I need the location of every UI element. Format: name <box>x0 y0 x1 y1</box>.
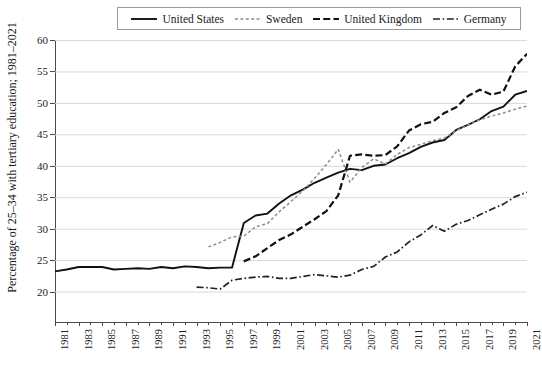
legend-label: United States <box>162 13 224 25</box>
y-tick-mark <box>50 134 55 135</box>
legend-entry-sweden[interactable]: Sweden <box>235 13 302 25</box>
x-minor-tick-mark <box>492 322 493 325</box>
x-minor-tick-mark <box>303 322 304 325</box>
x-tick-label: 2007 <box>366 329 377 350</box>
x-minor-tick-mark <box>279 322 280 325</box>
y-tick-mark <box>50 166 55 167</box>
legend-label: Germany <box>464 13 507 25</box>
x-tick-label: 1993 <box>201 329 212 350</box>
y-tick-mark <box>50 71 55 72</box>
y-tick-mark <box>50 197 55 198</box>
x-tick-mark <box>197 322 198 326</box>
y-tick-label: 50 <box>22 97 48 109</box>
legend-label: United Kingdom <box>344 13 422 25</box>
x-tick-label: 2015 <box>460 329 471 350</box>
x-tick-mark <box>456 322 457 326</box>
x-minor-tick-mark <box>374 322 375 325</box>
x-tick-label: 1985 <box>106 329 117 350</box>
x-tick-label: 2021 <box>531 329 542 350</box>
legend-entry-germany[interactable]: Germany <box>433 13 507 25</box>
x-minor-tick-mark <box>67 322 68 325</box>
x-tick-mark <box>267 322 268 326</box>
x-tick-mark <box>409 322 410 326</box>
x-tick-mark <box>315 322 316 326</box>
x-tick-mark <box>102 322 103 326</box>
x-tick-mark <box>291 322 292 326</box>
x-minor-tick-mark <box>161 322 162 325</box>
x-tick-label: 2017 <box>484 329 495 350</box>
y-tick-label: 45 <box>22 128 48 140</box>
x-tick-mark <box>433 322 434 326</box>
x-tick-label: 2009 <box>389 329 400 350</box>
x-tick-label: 2011 <box>413 329 424 350</box>
x-tick-mark <box>220 322 221 326</box>
y-axis-title: Percentage of 25–34 with tertiary educat… <box>5 0 20 318</box>
series-line-united-kingdom <box>244 54 527 262</box>
x-tick-mark <box>244 322 245 326</box>
x-tick-mark <box>55 322 56 326</box>
y-tick-mark <box>50 260 55 261</box>
x-tick-mark <box>527 322 528 326</box>
y-tick-mark <box>50 229 55 230</box>
x-minor-tick-mark <box>397 322 398 325</box>
x-tick-label: 1991 <box>177 329 188 350</box>
legend-entry-united-states[interactable]: United States <box>131 13 224 25</box>
x-minor-tick-mark <box>350 322 351 325</box>
x-tick-mark <box>480 322 481 326</box>
x-tick-label: 1995 <box>224 329 235 350</box>
plot-area <box>55 40 527 322</box>
y-tick-mark <box>50 103 55 104</box>
y-tick-label: 20 <box>22 286 48 298</box>
x-tick-label: 1999 <box>271 329 282 350</box>
x-tick-mark <box>362 322 363 326</box>
x-minor-tick-mark <box>232 322 233 325</box>
x-minor-tick-mark <box>421 322 422 325</box>
x-tick-mark <box>126 322 127 326</box>
y-tick-label: 60 <box>22 34 48 46</box>
y-tick-mark <box>50 292 55 293</box>
y-tick-label: 25 <box>22 254 48 266</box>
x-tick-mark <box>338 322 339 326</box>
x-tick-mark <box>385 322 386 326</box>
x-tick-label: 2003 <box>319 329 330 350</box>
x-minor-tick-mark <box>208 322 209 325</box>
x-minor-tick-mark <box>468 322 469 325</box>
x-tick-label: 2013 <box>437 329 448 350</box>
x-minor-tick-mark <box>326 322 327 325</box>
x-minor-tick-mark <box>515 322 516 325</box>
x-tick-mark <box>503 322 504 326</box>
tertiary-education-line-chart: United StatesSwedenUnited KingdomGermany… <box>0 0 542 392</box>
y-tick-label: 35 <box>22 191 48 203</box>
x-minor-tick-mark <box>114 322 115 325</box>
x-tick-label: 2001 <box>295 329 306 350</box>
series-line-germany <box>197 192 527 289</box>
x-minor-tick-mark <box>256 322 257 325</box>
y-tick-mark <box>50 40 55 41</box>
x-tick-mark <box>173 322 174 326</box>
x-minor-tick-mark <box>444 322 445 325</box>
x-tick-label: 1983 <box>83 329 94 350</box>
y-tick-label: 55 <box>22 65 48 77</box>
legend-label: Sweden <box>266 13 302 25</box>
y-tick-label: 40 <box>22 160 48 172</box>
series-lines <box>55 40 527 323</box>
x-tick-label: 2019 <box>507 329 518 350</box>
x-tick-label: 1981 <box>59 329 70 350</box>
x-minor-tick-mark <box>138 322 139 325</box>
x-tick-label: 1997 <box>248 329 259 350</box>
x-tick-label: 2005 <box>342 329 353 350</box>
x-tick-label: 1989 <box>153 329 164 350</box>
x-tick-mark <box>149 322 150 326</box>
x-tick-mark <box>79 322 80 326</box>
series-line-sweden <box>208 106 527 247</box>
series-line-united-states <box>55 91 527 271</box>
x-minor-tick-mark <box>90 322 91 325</box>
y-tick-label: 30 <box>22 223 48 235</box>
x-tick-label: 1987 <box>130 329 141 350</box>
chart-legend: United StatesSwedenUnited KingdomGermany <box>117 7 521 30</box>
x-minor-tick-mark <box>185 322 186 325</box>
legend-entry-united-kingdom[interactable]: United Kingdom <box>313 13 422 25</box>
